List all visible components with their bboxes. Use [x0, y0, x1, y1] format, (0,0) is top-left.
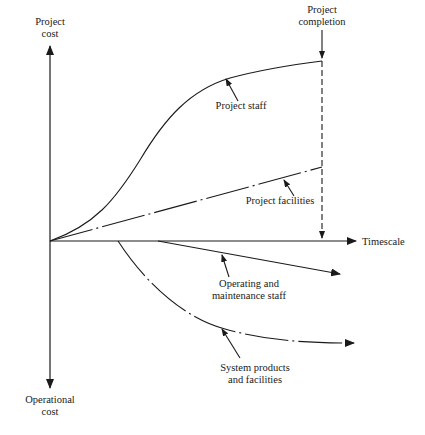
label-system-products: and facilities [228, 374, 282, 385]
series-om-staff [158, 241, 340, 274]
label-pointers [222, 79, 294, 358]
cost-timescale-diagram: Project cost Operational cost Project co… [0, 0, 425, 435]
completion-label: Project [307, 4, 337, 15]
x-axis-label: Timescale [362, 236, 405, 247]
completion-label: completion [298, 16, 346, 27]
y-top-label: Project [35, 16, 65, 27]
label-om-staff: Operating and [219, 278, 280, 289]
label-project-facilities: Project facilities [246, 195, 315, 206]
label-om-staff: maintenance staff [212, 290, 287, 301]
label-system-products: System products [220, 362, 290, 373]
series-project-staff [50, 61, 322, 241]
y-bottom-label: Operational [25, 394, 75, 405]
y-bottom-label: cost [42, 406, 59, 417]
y-top-label: cost [42, 28, 59, 39]
label-project-staff: Project staff [216, 100, 267, 111]
